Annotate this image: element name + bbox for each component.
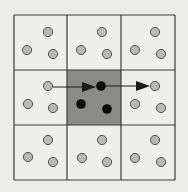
particle bbox=[156, 157, 165, 166]
particle bbox=[150, 81, 159, 90]
particle bbox=[77, 153, 86, 162]
particle bbox=[23, 99, 32, 108]
active-particle bbox=[76, 99, 86, 109]
active-particle bbox=[96, 81, 106, 91]
particle bbox=[150, 27, 159, 36]
particle bbox=[22, 45, 31, 54]
neighbor-cell bbox=[121, 125, 175, 180]
particle bbox=[43, 27, 52, 36]
particle bbox=[43, 81, 52, 90]
particle bbox=[48, 157, 57, 166]
grid-cells bbox=[14, 15, 175, 180]
particle bbox=[97, 135, 106, 144]
particle bbox=[130, 45, 139, 54]
particle bbox=[156, 49, 165, 58]
neighbor-cell bbox=[67, 125, 121, 180]
particle bbox=[97, 27, 106, 36]
particle bbox=[102, 157, 111, 166]
particle bbox=[48, 49, 57, 58]
particle bbox=[23, 152, 32, 161]
active-particle bbox=[102, 104, 112, 114]
neighbor-cell bbox=[14, 70, 67, 125]
particle bbox=[76, 45, 85, 54]
particle bbox=[130, 99, 139, 108]
neighbor-cell bbox=[67, 15, 121, 70]
neighbor-cell bbox=[121, 15, 175, 70]
neighbor-cell bbox=[121, 70, 175, 125]
particle bbox=[156, 103, 165, 112]
particle bbox=[130, 153, 139, 162]
particle bbox=[43, 135, 52, 144]
center-cell bbox=[67, 70, 121, 125]
neighbor-cell bbox=[14, 125, 67, 180]
cell-grid-diagram bbox=[0, 0, 188, 192]
neighbor-cell bbox=[14, 15, 67, 70]
particle bbox=[48, 103, 57, 112]
particle bbox=[150, 135, 159, 144]
particle bbox=[102, 49, 111, 58]
